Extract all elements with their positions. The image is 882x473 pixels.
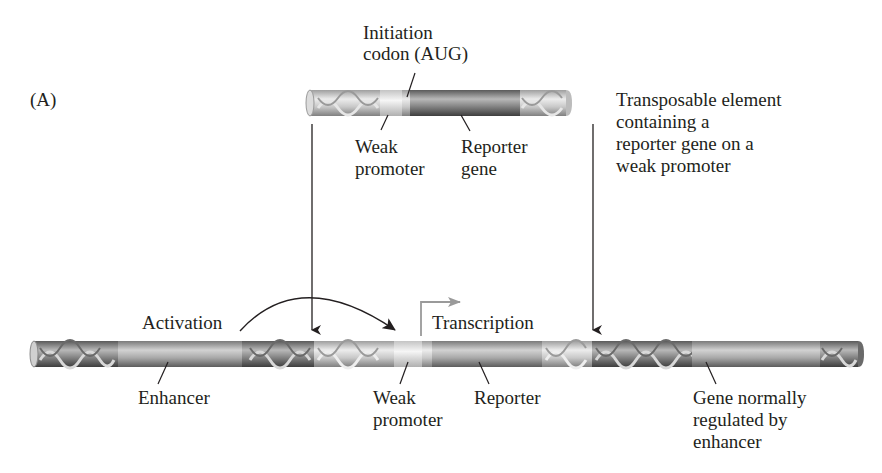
reporter-segment bbox=[432, 341, 542, 367]
enhancer-segment bbox=[118, 341, 242, 367]
panel-label: (A) bbox=[30, 89, 56, 110]
initiation-codon-label-line2: codon (AUG) bbox=[363, 43, 468, 64]
gene-segment bbox=[692, 341, 820, 367]
reporter-gene-segment-top bbox=[410, 90, 520, 116]
weak-promoter-segment-top bbox=[380, 90, 402, 116]
chromosome-bar bbox=[30, 340, 864, 368]
initiation-codon-segment bbox=[402, 90, 410, 116]
initiation-codon-label-line1: Initiation bbox=[363, 22, 433, 43]
gene-label-line2: regulated by bbox=[693, 409, 787, 430]
weak-promoter-top-label-line2: promoter bbox=[355, 158, 425, 179]
callout-weak-promoter-top bbox=[381, 115, 388, 130]
reporter-gene-top-label-line2: gene bbox=[461, 158, 497, 179]
enhancer-label: Enhancer bbox=[138, 387, 210, 408]
reporter-label: Reporter bbox=[474, 387, 540, 408]
gene-label-line1: Gene normally bbox=[693, 387, 806, 408]
transcription-label: Transcription bbox=[432, 312, 534, 333]
transposable-element-bar bbox=[306, 90, 572, 116]
description-line2: containing a bbox=[616, 111, 709, 132]
description-line1: Transposable element bbox=[616, 89, 782, 110]
weak-promoter-top-label-line1: Weak bbox=[355, 136, 398, 157]
description-line4: weak promoter bbox=[616, 155, 730, 176]
weak-promoter-label-line1: Weak bbox=[373, 387, 416, 408]
gene-label-line3: enhancer bbox=[693, 431, 762, 452]
reporter-gene-top-label-line1: Reporter bbox=[461, 136, 527, 157]
description-line3: reporter gene on a bbox=[616, 133, 754, 154]
activation-label: Activation bbox=[142, 312, 222, 333]
activation-arrow bbox=[240, 298, 395, 331]
callout-reporter-gene-top bbox=[461, 115, 470, 131]
weak-promoter-label-line2: promoter bbox=[373, 409, 443, 430]
